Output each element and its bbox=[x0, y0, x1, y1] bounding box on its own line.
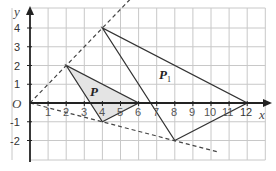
x-tick-label: 5 bbox=[117, 106, 123, 118]
y-tick-label: 4 bbox=[14, 22, 20, 34]
x-tick-label: 2 bbox=[63, 106, 69, 118]
origin-label: O bbox=[12, 96, 22, 111]
x-tick-label: 7 bbox=[153, 106, 159, 118]
x-tick-label: 6 bbox=[135, 106, 141, 118]
x-tick-label: 1 bbox=[45, 106, 51, 118]
y-tick-label: -2 bbox=[10, 135, 20, 147]
x-tick-label: 11 bbox=[222, 106, 233, 118]
x-tick-label: 9 bbox=[189, 106, 195, 118]
shape-label-p1: P1 bbox=[159, 67, 171, 84]
x-tick-label: 8 bbox=[171, 106, 177, 118]
x-tick-label: 3 bbox=[81, 106, 87, 118]
x-axis-arrow-icon bbox=[263, 99, 272, 107]
y-axis-label: y bbox=[12, 4, 20, 19]
y-tick-label: 3 bbox=[14, 41, 20, 53]
y-tick-label: 1 bbox=[14, 78, 20, 90]
enlargement-diagram: y x O 4 3 2 1 -1 -2 1 2 3 4 5 6 7 8 9 10… bbox=[0, 0, 276, 171]
y-axis-arrow-icon bbox=[26, 6, 34, 15]
shape-label-p1-subscript: 1 bbox=[167, 75, 171, 84]
x-tick-label: 12 bbox=[240, 106, 252, 118]
x-tick-label: 10 bbox=[204, 106, 216, 118]
y-tick-label: 2 bbox=[14, 60, 20, 72]
shape-label-p: P bbox=[90, 84, 99, 99]
x-axis-label: x bbox=[258, 107, 265, 122]
x-tick-label: 4 bbox=[99, 106, 105, 118]
y-tick-label: -1 bbox=[10, 116, 20, 128]
